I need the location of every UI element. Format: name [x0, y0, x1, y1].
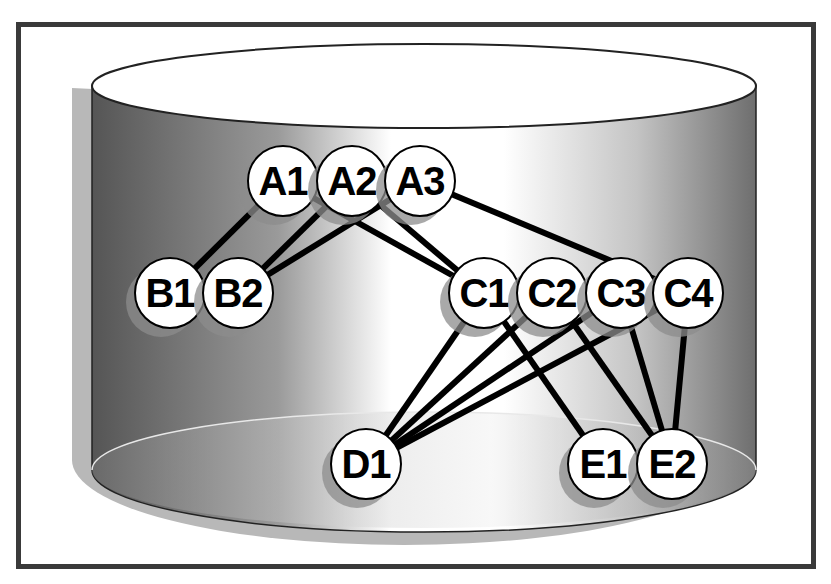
node-label: C4 — [663, 271, 714, 315]
node-label: A3 — [395, 159, 444, 203]
node-label: E1 — [580, 442, 628, 486]
node-label: C1 — [459, 271, 509, 315]
node-label: B2 — [213, 271, 262, 315]
cylinder-graph-diagram: A1A2A3B1B2C1C2C3C4D1E1E2 — [0, 0, 831, 584]
node-label: A1 — [258, 159, 308, 203]
node-label: E2 — [649, 442, 696, 486]
node-label: D1 — [341, 442, 391, 486]
node-label: C3 — [596, 271, 645, 315]
cylinder-top — [92, 44, 756, 128]
node-label: A2 — [327, 159, 376, 203]
node-label: C2 — [527, 271, 576, 315]
node-label: B1 — [145, 271, 195, 315]
